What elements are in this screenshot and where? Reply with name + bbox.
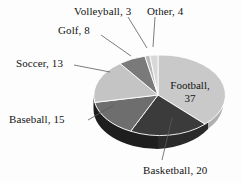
slice-label-soccer: Soccer, 13 — [16, 57, 63, 69]
leader-line-golf — [101, 35, 131, 56]
slice-label-football: Football, 37 — [163, 79, 217, 104]
slice-label-baseball: Baseball, 15 — [9, 113, 65, 125]
leader-line-other — [153, 17, 155, 47]
slice-label-basketball: Basketball, 20 — [143, 164, 207, 176]
leader-line-soccer — [74, 65, 110, 72]
slice-label-other: Other, 4 — [147, 5, 183, 17]
slice-label-football-line1: Football, — [163, 79, 217, 92]
leader-line-volleyball — [128, 17, 147, 48]
pie-chart-figure: Volleyball, 3 Other, 4 Golf, 8 Soccer, 1… — [0, 0, 242, 183]
slice-label-volleyball: Volleyball, 3 — [74, 5, 131, 17]
slice-label-golf: Golf, 8 — [58, 24, 90, 36]
slice-label-football-line2: 37 — [163, 92, 217, 105]
